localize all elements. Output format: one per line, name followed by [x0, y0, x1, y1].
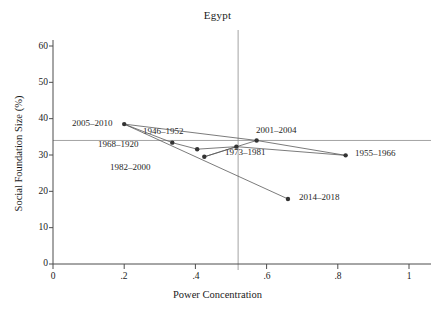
data-point-marker[interactable] [234, 144, 238, 148]
data-point-marker[interactable] [122, 122, 126, 126]
connector-line [204, 140, 256, 156]
connector-line [124, 124, 256, 140]
connector-line [236, 147, 345, 156]
data-point-marker[interactable] [254, 138, 258, 142]
data-point-marker[interactable] [286, 197, 290, 201]
connector-line [124, 124, 288, 199]
connector-line [257, 140, 346, 155]
plot-canvas [0, 0, 435, 315]
chart-figure: Egypt Social Foundation Size (%) Power C… [0, 0, 435, 315]
data-point-marker[interactable] [170, 140, 174, 144]
data-point-marker[interactable] [202, 155, 206, 159]
data-point-marker[interactable] [343, 153, 347, 157]
data-point-marker[interactable] [195, 147, 199, 151]
